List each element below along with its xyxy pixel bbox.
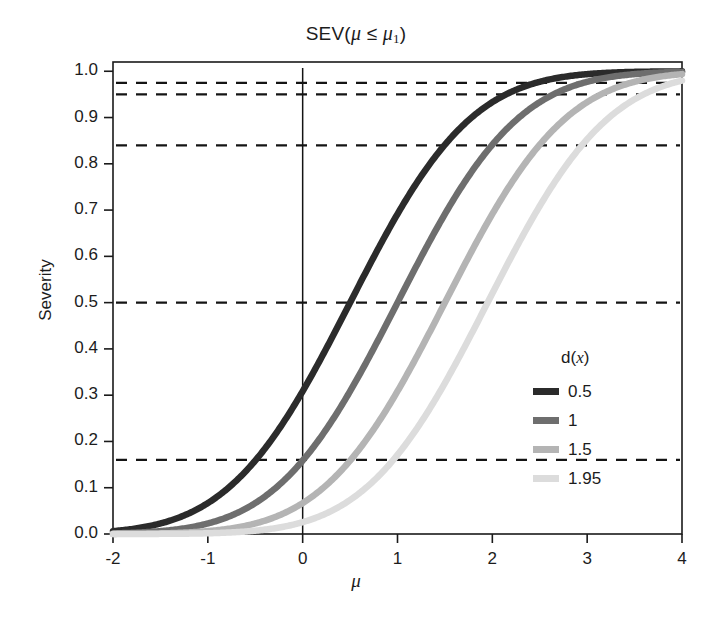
x-tick-label: 2 <box>452 549 532 569</box>
legend-swatch <box>533 446 559 453</box>
severity-chart-figure: SEV(μ ≤ μ1) Severity μ 0.00.10.20.30.40.… <box>0 0 712 622</box>
y-tick-label: 0.7 <box>14 199 98 219</box>
y-tick-label: 0.5 <box>14 292 98 312</box>
legend-item: 1 <box>533 406 601 435</box>
legend-item: 1.95 <box>533 464 601 493</box>
legend-item: 1.5 <box>533 435 601 464</box>
legend-title-prefix: d( <box>561 348 576 367</box>
x-tick-label: 0 <box>263 549 343 569</box>
y-tick-label: 0.2 <box>14 430 98 450</box>
legend-title-variable: x <box>576 348 584 367</box>
x-axis-title: μ <box>0 570 712 592</box>
legend: d(x) 0.511.51.95 <box>533 348 601 493</box>
y-tick-label: 0.8 <box>14 153 98 173</box>
legend-items: 0.511.51.95 <box>533 377 601 493</box>
legend-item-label: 0.5 <box>568 382 592 402</box>
y-tick-label: 0.0 <box>14 523 98 543</box>
legend-swatch <box>533 388 559 395</box>
y-tick-label: 0.6 <box>14 245 98 265</box>
y-tick-label: 1.0 <box>14 60 98 80</box>
x-tick-label: -2 <box>73 549 153 569</box>
legend-item: 0.5 <box>533 377 601 406</box>
legend-item-label: 1.95 <box>568 469 601 489</box>
x-tick-label: 3 <box>547 549 627 569</box>
y-tick-label: 0.9 <box>14 107 98 127</box>
x-tick-label: 4 <box>642 549 712 569</box>
legend-title-suffix: ) <box>584 348 590 367</box>
legend-item-label: 1 <box>568 411 577 431</box>
legend-swatch <box>533 475 559 482</box>
x-tick-label: 1 <box>358 549 438 569</box>
plot-area <box>0 0 712 622</box>
legend-item-label: 1.5 <box>568 440 592 460</box>
x-tick-label: -1 <box>168 549 248 569</box>
legend-swatch <box>533 417 559 424</box>
y-tick-label: 0.1 <box>14 477 98 497</box>
legend-title: d(x) <box>561 348 601 368</box>
y-tick-label: 0.4 <box>14 338 98 358</box>
y-tick-label: 0.3 <box>14 384 98 404</box>
